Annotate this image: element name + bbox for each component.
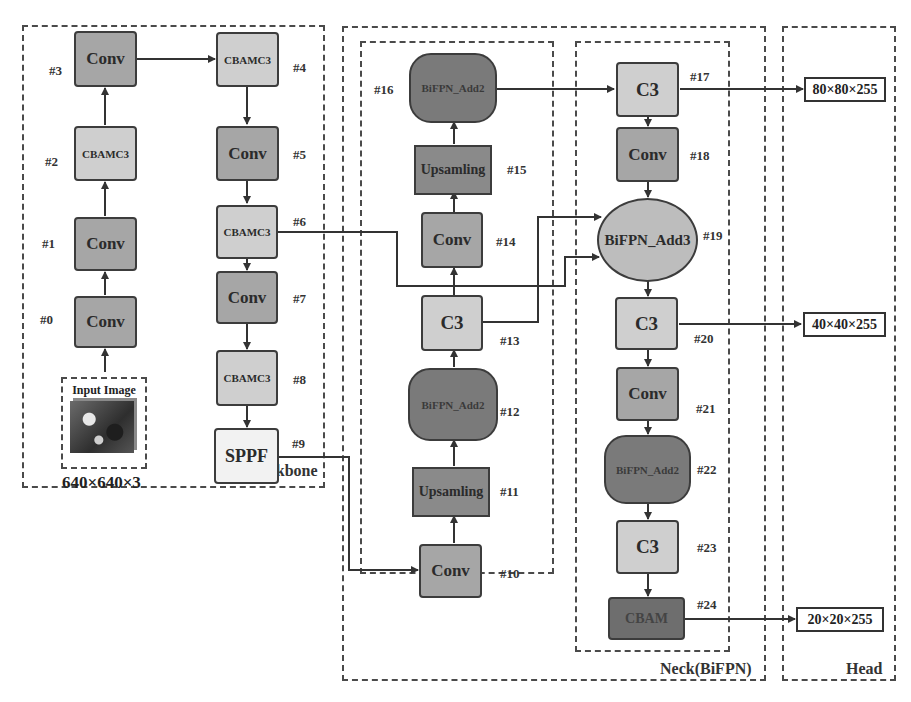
node-17-c3[interactable]: C3 (616, 62, 679, 117)
node-13-index: #13 (500, 333, 520, 349)
node-3-index: #3 (49, 63, 62, 79)
node-12-bifpn-add2[interactable]: BiFPN_Add2 (408, 368, 498, 441)
node-2-index: #2 (45, 154, 58, 170)
output-20x20: 20×20×255 (796, 607, 884, 632)
output-40x40: 40×40×255 (803, 312, 886, 337)
node-14-index: #14 (496, 234, 516, 250)
node-8-index: #8 (293, 372, 306, 388)
node-18-conv[interactable]: Conv (616, 127, 679, 182)
node-23-c3[interactable]: C3 (616, 520, 679, 574)
node-23-index: #23 (697, 540, 717, 556)
input-dimensions: 640×640×3 (62, 473, 141, 493)
node-18-index: #18 (690, 148, 710, 164)
node-20-index: #20 (694, 331, 714, 347)
node-4-cbamc3[interactable]: CBAMC3 (216, 32, 279, 87)
node-7-index: #7 (293, 291, 306, 307)
node-19-bifpn-add3[interactable]: BiFPN_Add3 (597, 198, 698, 282)
node-11-upsampling[interactable]: Upsamling (412, 467, 490, 517)
input-image-title: Input Image (63, 383, 145, 398)
node-22-bifpn-add2[interactable]: BiFPN_Add2 (604, 435, 691, 504)
node-12-index: #12 (500, 404, 520, 420)
node-20-c3[interactable]: C3 (615, 297, 678, 350)
node-6-index: #6 (293, 214, 306, 230)
node-5-index: #5 (293, 147, 306, 163)
node-17-index: #17 (690, 69, 710, 85)
architecture-diagram: Backbone Neck(BiFPN) Head (0, 0, 911, 702)
node-16-bifpn-add2[interactable]: BiFPN_Add2 (409, 53, 497, 123)
node-6-cbamc3[interactable]: CBAMC3 (216, 205, 278, 259)
node-21-index: #21 (696, 401, 716, 417)
input-image-box: Input Image (61, 377, 147, 469)
node-4-index: #4 (293, 60, 306, 76)
node-1-index: #1 (42, 236, 55, 252)
node-8-cbamc3[interactable]: CBAMC3 (216, 350, 278, 406)
node-21-conv[interactable]: Conv (616, 367, 679, 421)
node-0-index: #0 (40, 312, 53, 328)
node-14-conv[interactable]: Conv (421, 212, 483, 268)
node-10-index: #10 (500, 566, 520, 582)
output-80x80: 80×80×255 (804, 77, 886, 102)
node-24-cbam[interactable]: CBAM (608, 597, 685, 640)
node-9-index: #9 (292, 436, 305, 452)
input-image-thumbnail (70, 401, 134, 453)
node-19-index: #19 (703, 228, 723, 244)
node-15-index: #15 (507, 162, 527, 178)
node-0-conv[interactable]: Conv (74, 296, 137, 348)
node-22-index: #22 (697, 462, 717, 478)
node-2-cbamc3[interactable]: CBAMC3 (74, 126, 137, 181)
node-3-conv[interactable]: Conv (74, 31, 137, 87)
node-15-upsampling[interactable]: Upsamling (414, 145, 492, 195)
node-5-conv[interactable]: Conv (216, 126, 279, 181)
node-13-c3[interactable]: C3 (421, 295, 483, 351)
node-16-index: #16 (374, 82, 394, 98)
node-24-index: #24 (697, 597, 717, 613)
node-11-index: #11 (500, 484, 519, 500)
node-7-conv[interactable]: Conv (216, 271, 278, 324)
node-9-sppf[interactable]: SPPF (214, 428, 279, 484)
node-10-conv[interactable]: Conv (419, 544, 482, 598)
node-1-conv[interactable]: Conv (74, 217, 137, 271)
